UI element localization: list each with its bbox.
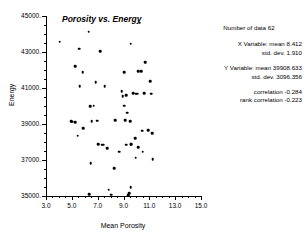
x-tick: [124, 196, 125, 200]
x-tick-minor: [182, 196, 183, 198]
data-point: [123, 104, 126, 107]
x-tick-label: 9.0: [119, 203, 128, 210]
data-point: [124, 119, 127, 122]
stat-count-label: Number of data: [223, 24, 266, 31]
x-tick-minor: [91, 196, 92, 198]
x-tick-label: 13.0: [169, 203, 182, 210]
y-tick-minor: [44, 187, 46, 188]
x-tick: [149, 196, 150, 200]
data-point: [106, 147, 109, 150]
data-point: [74, 65, 77, 68]
stat-rank-correlation-label: rank correlation: [240, 96, 283, 103]
x-tick-minor: [136, 196, 137, 198]
data-point: [118, 151, 121, 154]
data-point: [70, 120, 73, 123]
x-tick-minor: [85, 196, 86, 198]
data-point: [94, 81, 97, 84]
scatter-plot-page: Porosity vs. Energy Energy Mean Porosity…: [0, 0, 307, 244]
data-point: [129, 120, 132, 123]
data-point: [74, 121, 77, 124]
data-point: [144, 61, 147, 64]
x-tick-minor: [111, 196, 112, 198]
y-tick: [42, 16, 46, 17]
data-point: [125, 144, 128, 147]
stat-y-mean: Y Variable: mean 39908.633: [196, 64, 302, 72]
stat-y-mean-label: Y Variable: mean: [224, 64, 271, 71]
data-point: [134, 92, 137, 95]
y-tick-minor: [44, 79, 46, 80]
y-tick-label: 37000.: [21, 157, 41, 164]
x-tick: [72, 196, 73, 200]
y-tick-minor: [44, 115, 46, 116]
data-point: [141, 130, 144, 133]
stat-count-value: 62: [268, 24, 275, 31]
data-point: [91, 120, 94, 123]
data-point: [120, 90, 123, 93]
data-point: [78, 85, 81, 88]
y-tick-label: 35000.: [21, 193, 41, 200]
x-tick-minor: [156, 196, 157, 198]
data-point: [82, 71, 85, 74]
statistics-panel: Number of data 62 X Variable: mean 8.412…: [196, 24, 302, 105]
data-point: [150, 92, 153, 95]
x-tick-minor: [117, 196, 118, 198]
x-tick-minor: [169, 196, 170, 198]
data-point: [129, 186, 132, 189]
y-axis-line: [46, 16, 47, 196]
data-point: [99, 50, 102, 53]
y-tick-minor: [44, 43, 46, 44]
x-tick-minor: [104, 196, 105, 198]
x-tick-minor: [52, 196, 53, 198]
data-point: [88, 193, 91, 196]
x-tick: [175, 196, 176, 200]
x-tick-minor: [143, 196, 144, 198]
y-tick-minor: [44, 34, 46, 35]
plot-area: 45000.43000.41000.39000.37000.35000.3.05…: [46, 16, 201, 196]
data-point: [151, 158, 154, 161]
y-tick-minor: [44, 25, 46, 26]
y-tick-minor: [44, 97, 46, 98]
stat-y-sd: std. dev. 3096.356: [196, 73, 302, 81]
data-point: [96, 119, 99, 122]
y-tick-minor: [44, 142, 46, 143]
y-tick-minor: [44, 106, 46, 107]
data-point: [89, 162, 92, 165]
y-tick-label: 39000.: [21, 121, 41, 128]
x-tick-minor: [188, 196, 189, 198]
data-point: [143, 92, 146, 95]
y-tick: [42, 160, 46, 161]
data-point: [123, 71, 126, 74]
data-point: [107, 189, 110, 192]
data-point: [89, 105, 92, 108]
data-point: [82, 127, 85, 130]
stat-x-mean-value: 8.412: [287, 40, 302, 47]
x-axis-title: Mean Porosity: [101, 222, 146, 229]
data-point: [140, 70, 143, 73]
y-tick: [42, 88, 46, 89]
stat-x-sd: std. dev. 1.910: [196, 49, 302, 57]
stat-rank-correlation-value: -0.223: [284, 96, 302, 103]
y-axis-title: Energy: [8, 84, 15, 106]
x-tick: [46, 196, 47, 200]
x-tick-label: 5.0: [67, 203, 76, 210]
data-point: [125, 94, 128, 97]
y-tick-minor: [44, 178, 46, 179]
data-point: [122, 95, 125, 98]
x-tick-minor: [78, 196, 79, 198]
data-point: [130, 143, 133, 146]
data-point: [127, 194, 130, 197]
stat-y-sd-value: 3096.356: [276, 73, 302, 80]
data-point: [97, 143, 100, 146]
stat-y-mean-value: 39908.633: [273, 64, 302, 71]
data-point: [114, 119, 117, 122]
y-tick-minor: [44, 151, 46, 152]
stat-x-sd-value: 1.910: [287, 49, 302, 56]
stat-x-mean: X Variable: mean 8.412: [196, 40, 302, 48]
data-point: [134, 137, 137, 140]
data-point: [100, 143, 103, 146]
stat-correlation-label: correlation: [254, 88, 283, 95]
stat-count: Number of data 62: [196, 24, 302, 32]
x-tick: [201, 196, 202, 200]
stat-x-sd-label: std. dev.: [262, 49, 285, 56]
stat-correlation-value: -0.284: [284, 88, 302, 95]
